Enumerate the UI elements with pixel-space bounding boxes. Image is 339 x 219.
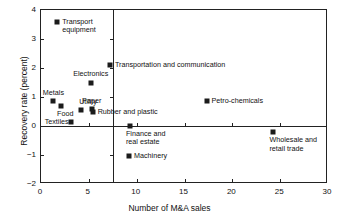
data-point-marker — [51, 98, 56, 103]
horizontal-zero-line — [41, 126, 326, 127]
data-point-marker — [79, 108, 84, 113]
data-point-label: Machinery — [134, 152, 167, 160]
data-point-marker — [90, 109, 95, 114]
x-tick-label: 15 — [179, 187, 188, 196]
x-axis-tick — [232, 179, 233, 183]
data-point-marker — [127, 153, 132, 158]
data-point-marker — [59, 103, 64, 108]
x-tick-label: 0 — [38, 187, 42, 196]
y-tick-label: 0 — [18, 121, 36, 130]
zero-line-tick — [137, 123, 138, 126]
data-point-label: Wholesale and retail trade — [269, 136, 317, 152]
data-point-marker — [55, 19, 60, 24]
x-tick-label: 10 — [131, 187, 140, 196]
zero-line-tick — [185, 123, 186, 126]
reference-line-tick — [110, 68, 113, 69]
y-tick-label: 3 — [18, 34, 36, 43]
x-axis-tick — [185, 179, 186, 183]
x-axis-tick — [280, 179, 281, 183]
y-axis-tick — [40, 97, 44, 98]
data-point-label: Paper — [82, 97, 101, 105]
x-tick-label: 30 — [323, 187, 332, 196]
zero-line-tick — [280, 123, 281, 126]
y-axis-tick — [40, 68, 44, 69]
reference-line-tick — [110, 126, 113, 127]
y-tick-label: −2 — [18, 179, 36, 188]
data-point-label: Transportation and communication — [115, 61, 225, 69]
reference-line-tick — [110, 39, 113, 40]
data-point-label: Electronics — [73, 70, 108, 78]
data-point-label: Petro-chemicals — [212, 97, 264, 105]
y-axis-tick — [40, 126, 44, 127]
reference-line-tick — [110, 155, 113, 156]
data-point-label: Transport equipment — [62, 18, 96, 34]
vertical-reference-line — [113, 10, 114, 182]
x-tick-label: 25 — [275, 187, 284, 196]
plot-area: Transport equipmentTransportation and co… — [40, 9, 327, 183]
data-point-label: Textiles — [45, 118, 69, 126]
data-point-marker — [271, 130, 276, 135]
zero-line-tick — [232, 123, 233, 126]
y-tick-label: 2 — [18, 63, 36, 72]
y-axis-tick — [40, 155, 44, 156]
y-tick-label: 1 — [18, 92, 36, 101]
data-point-label: Rubber and plastic — [98, 108, 158, 116]
zero-line-tick — [89, 123, 90, 126]
data-point-marker — [107, 63, 112, 68]
y-tick-label: 4 — [18, 5, 36, 14]
reference-line-tick — [110, 97, 113, 98]
scatter-chart: Recovery rate (percent) Number of M&A sa… — [0, 0, 339, 219]
x-axis-tick — [89, 179, 90, 183]
data-point-marker — [127, 124, 132, 129]
x-axis-title: Number of M&A sales — [0, 203, 339, 213]
y-axis-tick — [40, 39, 44, 40]
data-point-marker — [204, 99, 209, 104]
x-tick-label: 5 — [86, 187, 90, 196]
data-point-marker — [88, 80, 93, 85]
y-tick-label: −1 — [18, 150, 36, 159]
data-point-label: Metals — [43, 89, 64, 97]
x-axis-tick — [137, 179, 138, 183]
data-point-label: Finance and real estate — [126, 130, 166, 146]
x-tick-label: 20 — [227, 187, 236, 196]
